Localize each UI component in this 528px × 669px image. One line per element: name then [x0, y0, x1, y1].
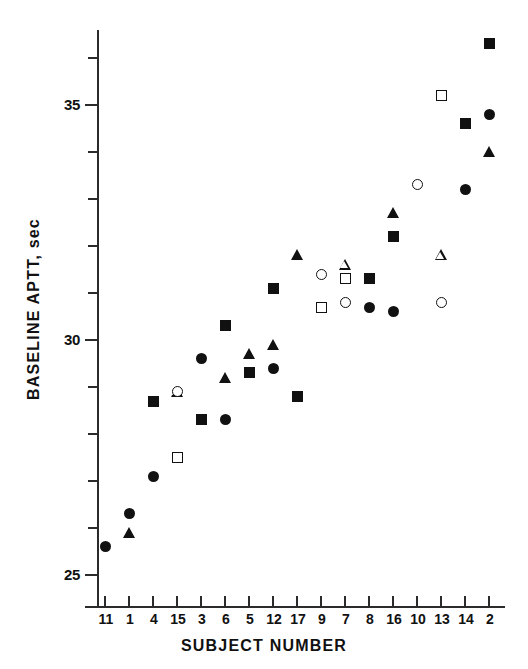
y-axis-minor-tick [88, 245, 98, 247]
data-point-triangle-open [435, 249, 447, 260]
x-axis-tick [224, 596, 226, 607]
y-axis-minor-tick [88, 151, 98, 153]
data-point-circle-filled [460, 184, 471, 195]
x-axis-tick [392, 596, 394, 607]
y-axis-tick-label: 35 [46, 97, 80, 112]
x-axis-tick [248, 596, 250, 607]
y-axis-tick-label: 30 [46, 332, 80, 347]
data-point-circle-open [340, 297, 351, 308]
x-axis-tick [128, 596, 130, 607]
data-point-square-filled [364, 273, 375, 284]
x-axis-tick [176, 596, 178, 607]
x-axis-tick [488, 596, 490, 607]
y-axis-line [97, 30, 99, 608]
x-axis-tick [272, 596, 274, 607]
data-point-circle-filled [100, 541, 111, 552]
y-axis-minor-tick [88, 527, 98, 529]
data-point-circle-filled [268, 363, 279, 374]
data-point-square-filled [148, 396, 159, 407]
data-point-square-filled [244, 367, 255, 378]
data-point-circle-filled [148, 471, 159, 482]
data-point-triangle-filled [219, 372, 231, 383]
y-axis-tick-label: 25 [46, 567, 80, 582]
data-point-circle-filled [220, 414, 231, 425]
data-point-triangle-filled [483, 146, 495, 157]
data-point-square-filled [196, 414, 207, 425]
data-point-square-filled [220, 320, 231, 331]
y-axis-major-tick [85, 104, 98, 106]
y-axis-minor-tick [88, 386, 98, 388]
data-point-square-filled [484, 38, 495, 49]
data-point-triangle-filled [387, 207, 399, 218]
y-axis-minor-tick [88, 480, 98, 482]
data-point-circle-filled [364, 302, 375, 313]
y-axis-title: BASELINE APTT, sec [25, 179, 43, 439]
data-point-triangle-filled [291, 249, 303, 260]
x-axis-tick [416, 596, 418, 607]
x-axis-line [85, 606, 505, 608]
data-point-circle-open [436, 297, 447, 308]
x-axis-title: SUBJECT NUMBER [0, 637, 528, 655]
y-axis-major-tick [85, 574, 98, 576]
scatter-plot: 253035 1114153651217978161013142 SUBJECT… [0, 0, 528, 669]
x-axis-tick [464, 596, 466, 607]
data-point-circle-open [412, 179, 423, 190]
data-point-square-filled [388, 231, 399, 242]
x-axis-tick [320, 596, 322, 607]
data-point-square-filled [268, 283, 279, 294]
data-point-square-filled [292, 391, 303, 402]
x-axis-tick [296, 596, 298, 607]
data-point-circle-filled [196, 353, 207, 364]
data-point-circle-open [172, 386, 183, 397]
x-axis-tick [344, 596, 346, 607]
data-point-square-open [172, 452, 183, 463]
data-point-circle-filled [124, 508, 135, 519]
x-axis-tick [104, 596, 106, 607]
y-axis-minor-tick [88, 57, 98, 59]
x-axis-tick [152, 596, 154, 607]
data-point-triangle-filled [123, 527, 135, 538]
y-axis-minor-tick [88, 292, 98, 294]
data-point-triangle-filled [267, 339, 279, 350]
y-axis-minor-tick [88, 198, 98, 200]
x-axis-tick [200, 596, 202, 607]
data-point-circle-filled [484, 109, 495, 120]
data-point-square-open [340, 273, 351, 284]
data-point-triangle-open [339, 259, 351, 270]
y-axis-minor-tick [88, 433, 98, 435]
data-point-square-open [436, 90, 447, 101]
x-axis-tick-label-2: 2 [475, 612, 505, 626]
data-point-circle-open [316, 269, 327, 280]
y-axis-major-tick [85, 339, 98, 341]
x-axis-tick [440, 596, 442, 607]
data-point-square-open [316, 302, 327, 313]
data-point-square-filled [460, 118, 471, 129]
data-point-circle-filled [388, 306, 399, 317]
data-point-triangle-filled [243, 348, 255, 359]
x-axis-tick [368, 596, 370, 607]
